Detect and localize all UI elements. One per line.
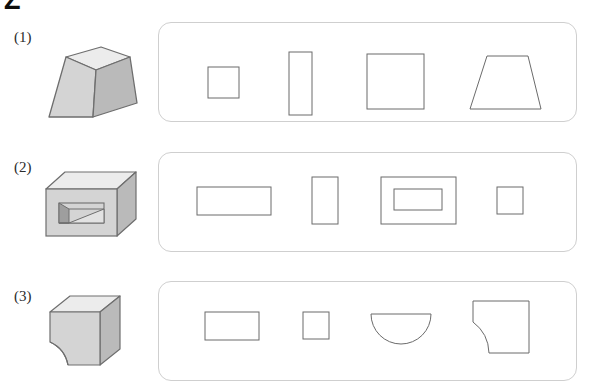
views-panel-2[interactable] [158,152,577,252]
solid-figure-1 [38,26,143,126]
solid-figure-2 [38,156,143,256]
cube-with-quarter-cylinder-cut-icon [38,285,143,385]
box-with-rectangular-slot-icon [38,156,143,256]
view-trapezoid [470,56,541,109]
views-row-1 [159,23,578,123]
view-square-with-quarter-circle-cut [473,301,529,353]
views-panel-3[interactable] [158,281,577,381]
views-row-3 [159,282,578,382]
problem-row-3: (3) [0,267,591,391]
view-small-square [497,187,523,214]
row-label-3: (3) [14,289,32,304]
view-small-vertical-rectangle [312,177,338,224]
row-label-1: (1) [14,30,32,45]
view-small-square [303,312,329,339]
views-row-2 [159,153,578,253]
problem-row-1: (1) [0,8,591,138]
truncated-pyramid-frustum-icon [38,26,143,126]
problem-row-2: (2) [0,138,591,268]
view-large-square [367,54,424,109]
solid-figure-3 [38,285,143,385]
view-wide-rectangle [197,187,271,215]
view-nested-rectangles-inner [394,189,442,210]
row-label-2: (2) [14,160,32,175]
view-tall-rectangle [289,52,312,115]
worksheet-page: Z (1) (2) [0,0,591,391]
view-wide-rectangle [205,312,259,340]
view-small-square [208,67,239,98]
views-panel-1[interactable] [158,22,577,122]
view-semicircle [371,314,431,344]
